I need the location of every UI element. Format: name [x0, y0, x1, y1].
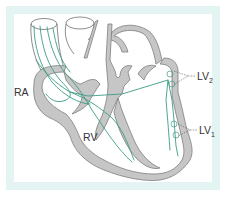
pacing-site-circle — [173, 132, 179, 138]
label-lv2: LV2 — [197, 70, 213, 84]
heart-walls — [34, 20, 192, 181]
label-lv1: LV1 — [199, 124, 215, 138]
great-vessels — [31, 17, 94, 72]
label-rv: RV — [83, 131, 97, 143]
heart-diagram: RA RV LV2 LV1 — [0, 0, 228, 198]
label-ra: RA — [14, 86, 29, 98]
